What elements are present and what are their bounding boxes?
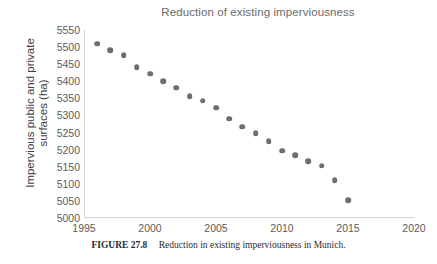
y-tick-label: 5350: [57, 92, 80, 104]
y-tick-label: 5250: [57, 127, 80, 139]
data-point: [319, 163, 325, 169]
data-point: [200, 98, 206, 104]
x-tick-label: 2005: [204, 222, 227, 234]
y-axis-line: [84, 30, 85, 218]
y-tick-label: 5100: [57, 178, 80, 190]
data-point: [306, 158, 312, 164]
y-axis-title-text: Impervious public and private surfaces (…: [24, 38, 51, 188]
x-axis-line: [84, 217, 414, 218]
data-point: [94, 41, 100, 47]
x-tick-label: 1995: [72, 222, 95, 234]
y-tick-label: 5400: [57, 75, 80, 87]
data-point: [226, 116, 232, 122]
x-tick-label: 2015: [336, 222, 359, 234]
x-tick-label: 2000: [138, 222, 161, 234]
data-point: [240, 124, 246, 130]
data-point: [345, 197, 351, 203]
y-tick-label: 5050: [57, 195, 80, 207]
data-point: [121, 52, 127, 58]
x-tick-label: 2020: [402, 222, 425, 234]
figure-caption-label: FIGURE 27.8: [91, 240, 147, 250]
y-axis-title: Impervious public and private surfaces (…: [20, 13, 54, 213]
figure-caption-text: Reduction in existing imperviousness in …: [159, 240, 346, 250]
y-tick-label: 5550: [57, 24, 80, 36]
y-tick-label: 5450: [57, 58, 80, 70]
data-point: [187, 93, 193, 99]
y-tick-label: 5500: [57, 41, 80, 53]
y-tick-label: 5300: [57, 109, 80, 121]
y-tick-label: 5200: [57, 144, 80, 156]
figure-root: Reduction of existing imperviousness Imp…: [0, 0, 437, 264]
data-point: [266, 138, 272, 144]
data-point: [253, 130, 259, 136]
data-point: [332, 178, 338, 184]
chart-title: Reduction of existing imperviousness: [118, 6, 398, 18]
y-tick-label: 5150: [57, 161, 80, 173]
data-point: [134, 64, 140, 70]
data-point: [147, 71, 153, 77]
data-point: [160, 78, 166, 84]
data-point: [213, 105, 219, 111]
data-point: [279, 148, 285, 154]
data-point: [174, 85, 180, 91]
figure-caption: FIGURE 27.8 Reduction in existing imperv…: [0, 240, 437, 250]
data-point: [292, 153, 298, 159]
plot-area: 5000505051005150520052505300535054005450…: [84, 30, 414, 218]
data-point: [108, 47, 114, 53]
x-tick-label: 2010: [270, 222, 293, 234]
